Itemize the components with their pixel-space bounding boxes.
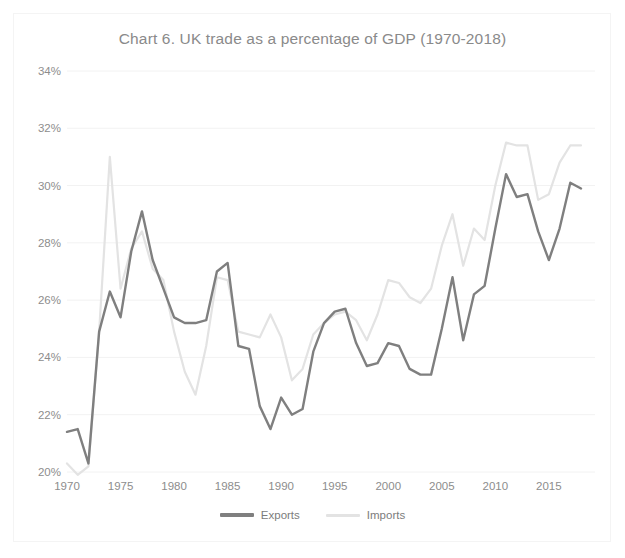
x-axis-tick-label: 2010 [465, 480, 525, 492]
gridlines [67, 71, 595, 472]
legend-item-exports[interactable]: Exports [220, 509, 300, 521]
x-axis-tick-label: 1980 [144, 480, 204, 492]
series-line-imports [67, 143, 581, 475]
x-axis-tick-label: 1985 [198, 480, 258, 492]
legend-swatch-icon [220, 513, 254, 517]
series-lines [67, 143, 581, 475]
chart-legend: ExportsImports [0, 509, 625, 521]
x-axis-tick-label: 1990 [251, 480, 311, 492]
y-axis-tick-label: 34% [17, 65, 61, 77]
y-axis-tick-label: 30% [17, 180, 61, 192]
y-axis-tick-label: 26% [17, 294, 61, 306]
legend-item-imports[interactable]: Imports [326, 509, 405, 521]
legend-swatch-icon [326, 514, 360, 517]
chart-card: Chart 6. UK trade as a percentage of GDP… [0, 0, 625, 558]
y-axis-tick-label: 22% [17, 409, 61, 421]
series-line-exports [67, 174, 581, 463]
y-axis-tick-label: 28% [17, 237, 61, 249]
x-axis-tick-label: 2015 [519, 480, 579, 492]
x-axis-tick-label: 1975 [91, 480, 151, 492]
y-axis-tick-label: 24% [17, 351, 61, 363]
x-axis-tick-label: 1970 [37, 480, 97, 492]
legend-label: Exports [261, 509, 300, 521]
x-axis-tick-label: 1995 [305, 480, 365, 492]
line-chart-plot [0, 0, 625, 558]
x-axis-tick-label: 2000 [358, 480, 418, 492]
x-axis-tick-label: 2005 [412, 480, 472, 492]
y-axis-tick-label: 20% [17, 466, 61, 478]
y-axis-tick-label: 32% [17, 122, 61, 134]
legend-label: Imports [367, 509, 405, 521]
